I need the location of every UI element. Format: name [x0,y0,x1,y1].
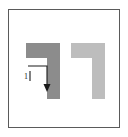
offset-label: 1 [24,72,28,81]
figure-canvas: 1 [0,0,128,137]
offset-arrow-path [28,66,47,86]
figure-root: 1 [0,0,128,137]
right-seven-polygon [71,43,105,99]
left-seven-polygon [26,43,60,99]
